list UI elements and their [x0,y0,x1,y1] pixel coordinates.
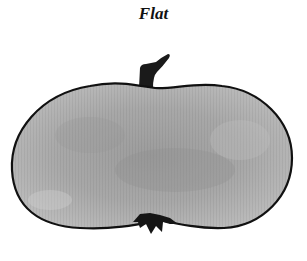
apple-body [12,83,292,228]
flat-apple-illustration [0,0,307,261]
stem-icon [139,54,170,88]
